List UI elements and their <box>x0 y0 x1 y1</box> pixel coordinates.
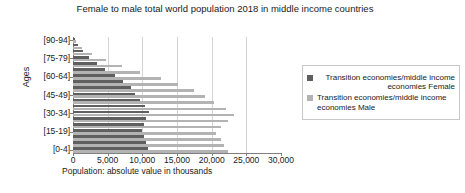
legend-swatch-male <box>307 95 313 101</box>
x-axis-tick-mark <box>281 153 282 156</box>
x-axis-tick-label: 10,000 <box>129 155 155 165</box>
legend-item[interactable]: Transition economies/middle income econo… <box>307 93 455 112</box>
legend-label: Transition economies/middle income econo… <box>317 73 455 92</box>
y-axis-tick-label: [15-19] <box>2 126 70 136</box>
bar-male <box>73 150 228 153</box>
x-axis-tick-label: 5,000 <box>97 155 118 165</box>
bar-male <box>73 40 76 43</box>
bar-male <box>73 59 106 62</box>
legend-swatch-female <box>307 75 313 81</box>
x-axis-tick-mark <box>73 153 74 156</box>
bar-male <box>73 53 92 56</box>
bar-male <box>73 126 221 129</box>
bar-male <box>73 89 194 92</box>
legend-item[interactable]: Transition economies/middle income econo… <box>307 73 455 92</box>
chart-legend: Transition economies/middle income econo… <box>302 65 460 120</box>
bar-male <box>73 138 221 141</box>
chart-title: Female to male total world population 20… <box>60 3 390 15</box>
bar-male <box>73 71 140 74</box>
y-axis-tick-label: [75-79] <box>2 53 70 63</box>
bar-male <box>73 144 224 147</box>
bar-male <box>73 114 234 117</box>
bar-male <box>73 120 228 123</box>
bar-male <box>73 108 226 111</box>
x-axis-tick-label: 15,000 <box>164 155 190 165</box>
x-axis-tick-mark <box>246 153 247 156</box>
bar-male <box>73 95 205 98</box>
chart-container: Female to male total world population 20… <box>0 0 465 193</box>
y-axis-tick-label: [30-34] <box>2 108 70 118</box>
legend-label: Transition economies/middle income econo… <box>317 93 455 112</box>
x-axis-tick-mark <box>142 153 143 156</box>
x-axis-tick-label: 20,000 <box>199 155 225 165</box>
y-axis-tick-label: [90-94] <box>2 35 70 45</box>
bar-series-group <box>73 37 281 153</box>
y-axis-tick-label: [0-4] <box>2 144 70 154</box>
bar-male <box>73 47 82 50</box>
bar-male <box>73 65 122 68</box>
x-axis-tick-mark <box>177 153 178 156</box>
bar-male <box>73 77 161 80</box>
x-axis-tick-label: 25,000 <box>233 155 259 165</box>
plot-area <box>73 37 281 153</box>
y-axis-tick-label: [60-64] <box>2 71 70 81</box>
x-axis-tick-mark <box>212 153 213 156</box>
bar-male <box>73 83 178 86</box>
y-axis-tick-labels: [90-94][75-79][60-64][45-49][30-34][15-1… <box>0 37 70 153</box>
bar-male <box>73 101 214 104</box>
x-axis-tick-mark <box>108 153 109 156</box>
y-axis-tick-label: [45-49] <box>2 90 70 100</box>
x-axis-title: Population: absolute value in thousands <box>62 166 212 176</box>
x-axis-tick-label: 30,000 <box>268 155 294 165</box>
bar-male <box>73 132 216 135</box>
x-axis-tick-label: 0 <box>71 155 76 165</box>
